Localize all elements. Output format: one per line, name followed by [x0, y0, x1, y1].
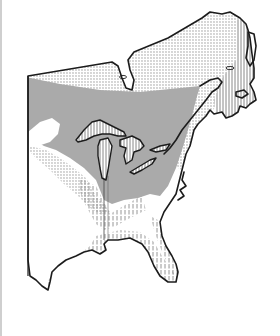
range-map [0, 0, 280, 336]
range-map-svg [0, 0, 280, 336]
